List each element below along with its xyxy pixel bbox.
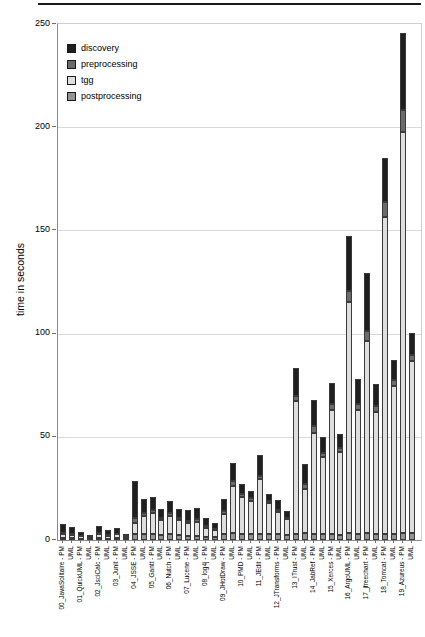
segment-postprocessing [203,537,209,540]
bar-10_PMD-UML [248,491,254,540]
segment-tgg [257,479,263,533]
segment-discovery [185,510,191,521]
x-label-11_JEdit-UML: UML [264,546,272,560]
segment-preprocessing [141,513,147,516]
segment-preprocessing [346,291,352,301]
segment-preprocessing [221,511,227,514]
segment-preprocessing [302,484,308,489]
x-tick-03_Junit-PM [116,540,117,543]
segment-discovery [382,158,388,202]
x-label-01_QuickUML-UML: UML [85,546,93,560]
bar-12_JTransforms-UML [284,511,290,540]
bar-17_jfreechart-PM [364,273,370,540]
x-tick-18_Tomcat-UML [393,540,394,543]
segment-preprocessing [293,396,299,401]
x-tick-14_JabRef-UML [322,540,323,543]
segment-tgg [293,401,299,534]
x-label-11_JEdit-PM: 11_JEdit - PM [255,546,263,586]
segment-discovery [60,524,66,533]
y-tick-100 [52,333,56,334]
segment-tgg [158,520,164,535]
segment-discovery [203,518,209,526]
segment-preprocessing [150,510,156,513]
x-label-16_ArgoUML-UML: UML [353,546,361,560]
x-label-07_Lucene-PM: 07_Lucene - PM [183,546,191,594]
segment-discovery [311,400,317,427]
segment-discovery [141,499,147,512]
segment-preprocessing [132,518,138,523]
segment-discovery [78,532,84,536]
segment-postprocessing [257,534,263,540]
x-label-14_JabRef-UML: UML [318,546,326,560]
segment-postprocessing [212,537,218,540]
segment-tgg [391,386,397,534]
bar-16_ArgoUML-PM [346,236,352,540]
gridline-200 [58,127,421,128]
segment-postprocessing [132,534,138,540]
bar-05_Gantt-PM [150,497,156,540]
segment-postprocessing [158,535,164,540]
y-tick-200 [52,126,56,127]
x-tick-19_Azureus-PM [402,540,403,543]
gridline-150 [58,230,421,231]
x-label-00_JavaSolitaire-UML: UML [67,546,75,560]
x-tick-06_Nutch-PM [169,540,170,543]
y-tick-label-250: 250 [16,19,50,28]
segment-discovery [355,379,361,404]
segment-preprocessing [409,355,415,361]
segment-postprocessing [355,534,361,540]
bar-01_QuickUML-PM [78,532,84,540]
bar-07_Lucene-UML [194,508,200,540]
segment-discovery [132,481,138,518]
x-label-04_JSSE-PM: 04_JSSE - PM [130,546,138,589]
x-tick-16_ArgoUML-PM [348,540,349,543]
segment-tgg [230,486,236,533]
segment-discovery [391,360,397,380]
segment-discovery [167,501,173,513]
segment-tgg [150,513,156,533]
segment-postprocessing [60,538,66,540]
x-label-03_Junit-PM: 03_Junit - PM [112,546,120,586]
bar-19_Azureus-UML [409,333,415,540]
bar-07_Lucene-PM [185,510,191,540]
x-label-13_ITrust-UML: UML [300,546,308,560]
segment-preprocessing [185,521,191,523]
segment-preprocessing [382,202,388,217]
bar-02_JsciCalc-PM [96,526,102,540]
segment-tgg [123,537,129,539]
x-tick-18_Tomcat-PM [384,540,385,543]
x-tick-12_JTransforms-PM [277,540,278,543]
segment-discovery [257,455,263,476]
segment-postprocessing [302,533,308,540]
segment-preprocessing [373,406,379,412]
x-tick-19_Azureus-UML [411,540,412,543]
segment-discovery [275,500,281,510]
segment-postprocessing [69,538,75,540]
bar-15_Xerces-PM [329,383,335,540]
legend-label-postprocessing: postprocessing [81,92,142,101]
y-tick-label-50: 50 [16,431,50,440]
segment-preprocessing [158,518,164,520]
bar-16_ArgoUML-UML [355,379,361,540]
x-label-13_ITrust-PM: 13_ITrust - PM [291,546,299,589]
segment-postprocessing [329,534,335,540]
x-tick-02_JsciCalc-PM [98,540,99,543]
segment-preprocessing [311,426,317,432]
segment-preprocessing [176,518,182,520]
x-tick-10_PMD-UML [250,540,251,543]
segment-postprocessing [346,533,352,540]
segment-tgg [105,536,111,539]
bar-15_Xerces-UML [337,434,343,540]
segment-tgg [69,535,75,538]
bar-01_QuickUML-UML [87,535,93,540]
segment-tgg [203,528,209,537]
x-tick-01_QuickUML-UML [89,540,90,543]
legend-row-tgg: tgg [67,72,142,88]
x-tick-03_Junit-UML [125,540,126,543]
segment-discovery [176,509,182,517]
segment-postprocessing [176,535,182,540]
segment-postprocessing [266,534,272,540]
segment-postprocessing [382,534,388,540]
x-label-18_Tomcat-UML: UML [389,546,397,560]
x-tick-04_JSSE-UML [143,540,144,543]
